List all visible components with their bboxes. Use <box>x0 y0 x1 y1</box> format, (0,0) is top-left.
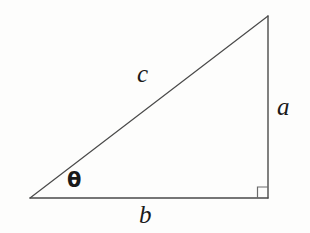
triangle-figure: c a b θ <box>0 0 310 233</box>
hypotenuse-label: c <box>137 61 148 86</box>
angle-theta-label: θ <box>67 170 81 191</box>
opposite-side-label: a <box>277 94 290 119</box>
triangle-drawing <box>0 0 310 233</box>
adjacent-side-label: b <box>139 202 152 227</box>
hypotenuse-line <box>30 16 268 198</box>
right-angle-marker <box>258 187 269 198</box>
